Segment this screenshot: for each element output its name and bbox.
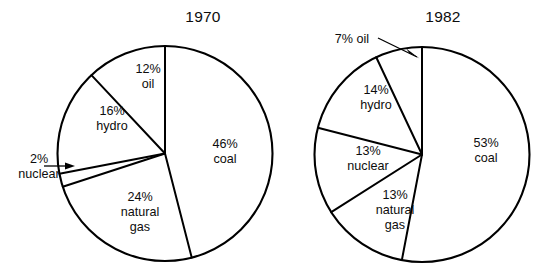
slice-value-1982-oil: 7% oil bbox=[322, 32, 382, 47]
slice-label-1970-hydro: 16% hydro bbox=[80, 104, 144, 134]
slice-value-1970-nuclear: 2% bbox=[2, 152, 76, 167]
slice-label-1982-natural-gas: 13% natural gas bbox=[363, 188, 427, 233]
slice-value-1970-oil: 12% bbox=[118, 62, 178, 77]
slice-name-1982-coal: coal bbox=[458, 151, 514, 166]
slice-label-1982-oil: 7% oil bbox=[322, 32, 382, 47]
slice-value-1970-hydro: 16% bbox=[80, 104, 144, 119]
slice-value-1970-coal: 46% bbox=[195, 137, 255, 152]
slice-label-1982-coal: 53% coal bbox=[458, 136, 514, 166]
slice-name-1970-natural-gas-line1: natural bbox=[105, 205, 175, 220]
slice-name-1982-nuclear: nuclear bbox=[330, 159, 406, 174]
slice-label-1970-oil: 12% oil bbox=[118, 62, 178, 92]
slice-label-1970-nuclear: 2% nuclear bbox=[2, 152, 76, 182]
slice-value-1982-coal: 53% bbox=[458, 136, 514, 151]
slice-value-1982-nuclear: 13% bbox=[330, 144, 406, 159]
chart-title-1970: 1970 bbox=[163, 8, 243, 26]
slice-name-1982-natural-gas-line1: natural bbox=[363, 203, 427, 218]
slice-value-1982-natural-gas: 13% bbox=[363, 188, 427, 203]
slice-name-1982-hydro: hydro bbox=[345, 98, 407, 113]
slice-label-1970-natural-gas: 24% natural gas bbox=[105, 190, 175, 235]
slice-name-1970-hydro: hydro bbox=[80, 119, 144, 134]
slice-name-1970-natural-gas-line2: gas bbox=[105, 220, 175, 235]
slice-label-1970-coal: 46% coal bbox=[195, 137, 255, 167]
figure-canvas: 1970 1982 12% oil 16% hydro 46% coal 24%… bbox=[0, 0, 539, 274]
slice-value-1970-natural-gas: 24% bbox=[105, 190, 175, 205]
slice-label-1982-nuclear: 13% nuclear bbox=[330, 144, 406, 174]
slice-label-1982-hydro: 14% hydro bbox=[345, 83, 407, 113]
chart-title-1982: 1982 bbox=[403, 8, 483, 26]
slice-name-1970-coal: coal bbox=[195, 152, 255, 167]
slice-name-1982-natural-gas-line2: gas bbox=[363, 218, 427, 233]
slice-value-1982-hydro: 14% bbox=[345, 83, 407, 98]
slice-name-1970-nuclear: nuclear bbox=[2, 167, 76, 182]
slice-name-1970-oil: oil bbox=[118, 77, 178, 92]
